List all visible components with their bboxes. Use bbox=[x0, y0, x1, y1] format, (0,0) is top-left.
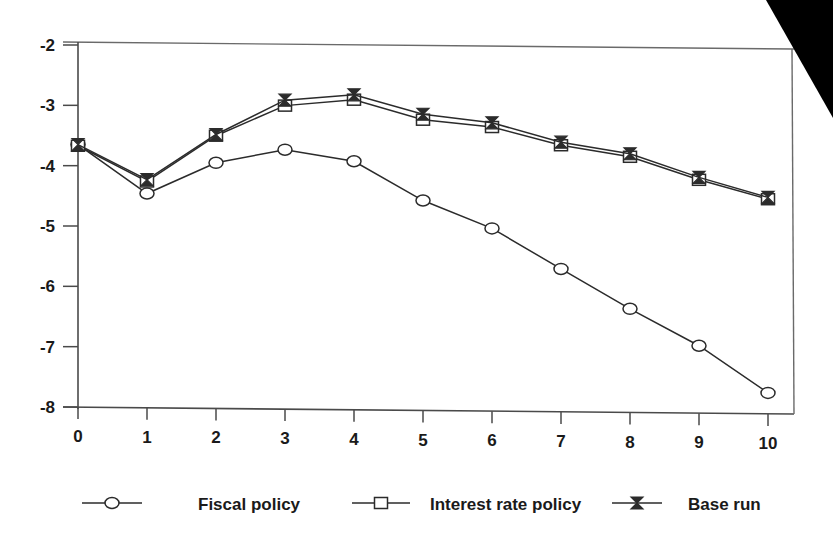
legend-label: Base run bbox=[688, 495, 761, 514]
data-point-marker bbox=[140, 188, 154, 199]
data-point-marker bbox=[416, 195, 430, 206]
x-tick-label: 5 bbox=[418, 431, 427, 450]
series-3 bbox=[72, 89, 774, 204]
data-point-marker bbox=[347, 156, 361, 167]
y-tick-label: -7 bbox=[40, 338, 55, 357]
legend-label: Interest rate policy bbox=[430, 495, 582, 514]
data-point-marker bbox=[209, 157, 223, 168]
series-line bbox=[78, 145, 768, 393]
y-tick-label: -2 bbox=[40, 36, 55, 55]
x-tick-label: 3 bbox=[280, 429, 289, 448]
x-tick-label: 10 bbox=[759, 434, 778, 453]
legend-label: Fiscal policy bbox=[198, 495, 301, 514]
x-tick-label: 7 bbox=[556, 432, 565, 451]
legend-item-1[interactable]: Fiscal policy bbox=[82, 495, 301, 514]
y-tick-label: -4 bbox=[40, 157, 56, 176]
line-chart: -2-3-4-5-6-7-8 012345678910 Fiscal polic… bbox=[0, 0, 833, 538]
square-marker bbox=[375, 498, 388, 509]
chart-container: -2-3-4-5-6-7-8 012345678910 Fiscal polic… bbox=[0, 0, 833, 538]
y-tick-label: -3 bbox=[40, 96, 55, 115]
y-tick-label: -8 bbox=[40, 398, 55, 417]
x-axis-ticks: 012345678910 bbox=[73, 407, 777, 453]
data-point-marker bbox=[485, 223, 499, 234]
x-tick-label: 1 bbox=[142, 428, 151, 447]
data-point-marker bbox=[692, 340, 706, 351]
x-tick-label: 2 bbox=[211, 428, 220, 447]
x-tick-label: 0 bbox=[73, 427, 82, 446]
x-tick-label: 9 bbox=[694, 433, 703, 452]
x-tick-label: 6 bbox=[487, 431, 496, 450]
y-tick-label: -6 bbox=[40, 277, 55, 296]
legend-item-2[interactable]: Interest rate policy bbox=[352, 495, 582, 514]
x-tick-label: 8 bbox=[625, 433, 634, 452]
data-point-marker bbox=[278, 144, 292, 155]
plot-frame bbox=[63, 42, 794, 414]
legend-item-3[interactable]: Base run bbox=[612, 495, 761, 514]
series-1 bbox=[71, 139, 775, 398]
x-axis-line bbox=[63, 407, 794, 414]
page-corner-artifact bbox=[766, 0, 833, 118]
series-layer bbox=[71, 89, 775, 399]
y-axis-ticks: -2-3-4-5-6-7-8 bbox=[40, 36, 78, 417]
frame-right-border bbox=[792, 49, 794, 414]
chart-legend: Fiscal policyInterest rate policyBase ru… bbox=[82, 495, 761, 514]
data-point-marker bbox=[761, 387, 775, 398]
circle-marker bbox=[105, 498, 119, 509]
data-point-marker bbox=[623, 303, 637, 314]
y-tick-label: -5 bbox=[40, 217, 55, 236]
x-tick-label: 4 bbox=[349, 430, 359, 449]
data-point-marker bbox=[554, 263, 568, 274]
frame-top-border bbox=[63, 42, 794, 49]
